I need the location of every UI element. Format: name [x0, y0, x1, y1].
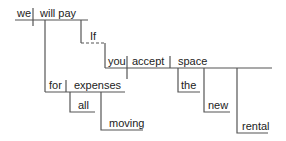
- word-modifier-new: new: [208, 99, 228, 111]
- word-modifier-the: the: [181, 79, 196, 91]
- word-modifier-rental: rental: [242, 120, 270, 132]
- word-modifier-all: all: [78, 99, 89, 111]
- word-clause-object: space: [178, 55, 207, 67]
- word-prep-object: expenses: [74, 79, 122, 91]
- word-conjunction: If: [90, 30, 97, 42]
- sentence-diagram: we will pay If you accept space the new …: [0, 0, 286, 141]
- word-subject: we: [16, 7, 31, 19]
- word-modifier-moving: moving: [109, 117, 144, 129]
- diagram-lines: we will pay If you accept space the new …: [0, 0, 286, 141]
- word-preposition: for: [49, 79, 62, 91]
- word-clause-subject: you: [108, 55, 126, 67]
- word-verb: will pay: [39, 7, 77, 19]
- word-clause-verb: accept: [132, 55, 164, 67]
